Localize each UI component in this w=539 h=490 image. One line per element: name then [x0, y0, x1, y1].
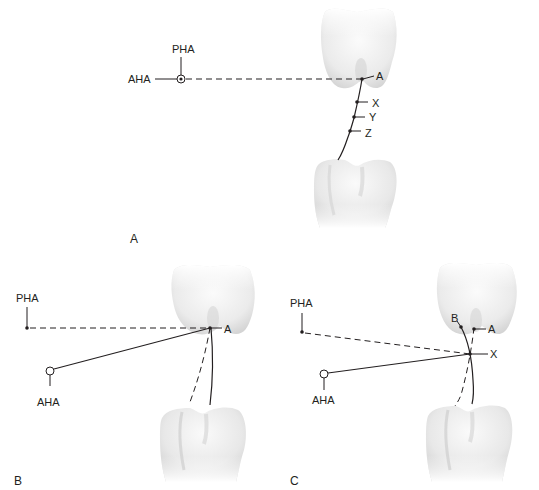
upper-tooth-a [321, 8, 397, 88]
upper-tooth-c [437, 263, 517, 334]
label-aha-a: AHA [128, 73, 151, 85]
aha-circle-c [320, 370, 328, 378]
label-pha-a: PHA [172, 43, 195, 55]
dashed-arc-b [190, 328, 210, 402]
panel-label-c: C [290, 474, 299, 488]
lower-tooth-a [314, 159, 397, 228]
label-aha-c: AHA [312, 394, 335, 406]
label-pha-c: PHA [290, 297, 313, 309]
upper-tooth-b [171, 265, 254, 334]
diagram-canvas: PHA AHA A X Y Z A PHA [0, 0, 539, 490]
label-point-a-c: A [488, 323, 496, 335]
label-point-y: Y [369, 111, 377, 123]
label-point-a-b: A [224, 323, 232, 335]
closure-arc [338, 79, 362, 160]
label-aha-b: AHA [37, 396, 60, 408]
label-point-x: X [372, 97, 380, 109]
pha-dot-c [300, 330, 304, 334]
point-x-dot-c [468, 352, 472, 356]
lower-tooth-b [160, 407, 246, 482]
lower-tooth-c [426, 405, 512, 482]
panel-label-b: B [14, 474, 22, 488]
solid-arc-c [461, 327, 473, 404]
hinge-axis-dot [179, 77, 182, 80]
panel-label-a: A [130, 232, 138, 246]
label-pha-b: PHA [16, 292, 39, 304]
panel-b: PHA AHA A B [14, 265, 255, 488]
label-point-x-c: X [490, 348, 498, 360]
aha-solid-line-c [328, 354, 470, 373]
point-a-dot-b [208, 326, 212, 330]
label-point-z: Z [365, 127, 372, 139]
label-point-b-c: B [451, 312, 458, 324]
pha-dot-b [25, 326, 29, 330]
aha-solid-line-b [54, 328, 210, 369]
dashed-arc-c [455, 328, 474, 406]
panel-a: PHA AHA A X Y Z A [128, 8, 397, 246]
label-point-a: A [376, 70, 384, 82]
solid-arc-b [210, 328, 212, 405]
pha-dashed-line-c [305, 333, 470, 354]
panel-c: PHA AHA A B X C [290, 263, 517, 488]
aha-circle-b [46, 367, 54, 375]
